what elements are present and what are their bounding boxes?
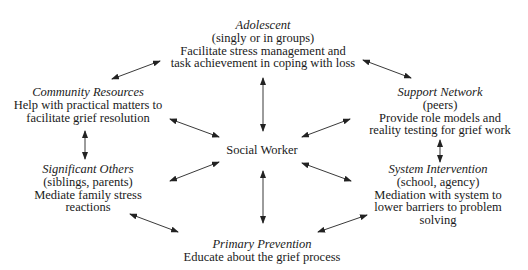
arrow-system-social-worker [302, 163, 351, 181]
node-subtitle: (siblings, parents) [34, 176, 142, 189]
node-title: Primary Prevention [184, 238, 341, 251]
node-title: Significant Others [34, 163, 142, 176]
arrow-system-primary [318, 215, 367, 232]
node-title: Community Resources [14, 86, 163, 99]
node-adolescent: Adolescent (singly or in groups) Facilit… [171, 19, 355, 70]
node-title: Adolescent [171, 19, 355, 32]
node-title: Support Network [369, 86, 511, 99]
center-label: Social Worker [226, 144, 297, 157]
node-community-resources: Community Resources Help with practical … [14, 86, 163, 124]
node-line: task achievement in coping with loss [171, 57, 355, 70]
arrow-community-social-worker [170, 119, 219, 137]
node-primary-prevention: Primary Prevention Educate about the gri… [184, 238, 341, 264]
node-line: Help with practical matters to [14, 99, 163, 112]
node-support-network: Support Network (peers) Provide role mod… [369, 86, 511, 137]
node-system-intervention: System Intervention (school, agency) Med… [374, 163, 501, 227]
node-significant-others: Significant Others (siblings, parents) M… [34, 163, 142, 214]
arrow-significant-social-worker [170, 162, 219, 181]
node-line: Educate about the grief process [184, 251, 341, 264]
node-title: System Intervention [374, 163, 501, 176]
arrow-adolescent-community [112, 61, 160, 79]
arrow-significant-primary [130, 214, 178, 232]
node-subtitle: (school, agency) [374, 176, 501, 189]
node-line: reality testing for grief work [369, 124, 511, 137]
arrow-support-social-worker [302, 119, 350, 137]
node-line: facilitate grief resolution [14, 112, 163, 125]
node-line: solving [374, 214, 501, 227]
node-line: reactions [34, 201, 142, 214]
node-subtitle: (peers) [369, 99, 511, 112]
node-social-worker: Social Worker [226, 144, 297, 157]
node-subtitle: (singly or in groups) [171, 32, 355, 45]
arrow-adolescent-support [363, 60, 411, 78]
